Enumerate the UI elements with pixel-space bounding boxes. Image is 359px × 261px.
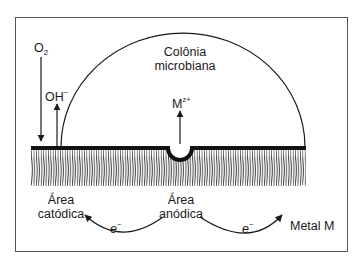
oxygen-label: O2 [34, 41, 48, 60]
anodic-line1: Área [152, 193, 210, 207]
electron-left-label: e− [110, 218, 121, 236]
cathodic-area-label: Área catódica [30, 193, 92, 221]
anodic-area-label: Área anódica [152, 193, 210, 221]
electron-flow-right-arrow [200, 215, 282, 233]
hydroxide-symbol: OH [45, 90, 64, 104]
colony-label-line1: Colônia [150, 45, 220, 59]
electron-right-superscript: − [249, 220, 253, 229]
electron-right-label: e− [242, 218, 253, 236]
metal-label: Metal M [290, 219, 334, 233]
electron-right-symbol: e [242, 222, 249, 236]
colony-label-line2: microbiana [150, 59, 220, 73]
cathodic-line1: Área [30, 193, 92, 207]
anodic-line2: anódica [152, 207, 210, 221]
oxygen-subscript: 2 [44, 48, 48, 57]
metal-ion-superscript: z+ [182, 95, 190, 104]
metal-ion-label: Mz+ [172, 93, 191, 111]
oxygen-symbol: O [34, 41, 44, 55]
metal-ion-symbol: M [172, 97, 182, 111]
cathodic-line2: catódica [30, 207, 92, 221]
electron-left-superscript: − [117, 220, 121, 229]
hydroxide-superscript: − [64, 88, 68, 97]
hydroxide-label: OH− [45, 86, 68, 104]
electron-left-symbol: e [110, 222, 117, 236]
colony-label: Colônia microbiana [150, 45, 220, 73]
